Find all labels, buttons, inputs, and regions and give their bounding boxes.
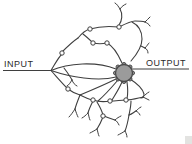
synaptic-bouton xyxy=(91,98,95,102)
axon-lines xyxy=(3,69,189,71)
synaptic-bouton xyxy=(88,27,92,31)
dendrite-branch xyxy=(80,95,92,100)
dendrite-branch xyxy=(64,68,72,80)
dendrite-branch xyxy=(88,101,93,113)
terminal-fork xyxy=(90,129,99,136)
dendrite-branch xyxy=(51,64,116,71)
terminal-fork xyxy=(69,109,78,117)
terminal-fork xyxy=(115,116,121,125)
synaptic-bouton xyxy=(117,25,121,29)
neuron-figure: INPUT OUTPUT xyxy=(0,0,192,144)
dendrite-branch xyxy=(119,9,122,25)
dendrite-branch xyxy=(107,43,122,63)
terminal-fork xyxy=(115,3,126,9)
dendrite-branch xyxy=(51,71,116,80)
dendrite-branch xyxy=(90,26,119,29)
neuron-diagram: INPUT OUTPUT xyxy=(0,0,192,144)
terminal-fork xyxy=(145,17,150,26)
terminal-fork xyxy=(136,107,141,115)
synaptic-bouton xyxy=(105,41,109,45)
terminal-fork xyxy=(67,80,77,86)
dendrite-branch xyxy=(127,82,128,99)
dendrite-branch xyxy=(75,95,80,109)
synaptic-bouton xyxy=(108,99,112,103)
soma-body xyxy=(116,65,133,82)
dendrite-branch xyxy=(62,38,78,52)
terminal-forks xyxy=(67,3,150,137)
synaptic-bouton xyxy=(60,51,64,55)
dendrite-branch xyxy=(97,102,103,115)
corner-artifact xyxy=(185,136,192,144)
synaptic-bouton xyxy=(101,114,105,118)
dendrite-branch xyxy=(80,79,116,95)
terminal-fork xyxy=(82,113,90,120)
dendrite-branch xyxy=(97,117,103,129)
synaptic-bouton xyxy=(66,87,70,91)
terminal-fork xyxy=(145,43,149,53)
synaptic-bouton xyxy=(91,41,95,45)
dendrite-branch xyxy=(141,46,145,48)
synaptic-bouton xyxy=(124,98,128,102)
terminal-fork xyxy=(118,131,127,137)
input-label: INPUT xyxy=(4,59,34,69)
output-label: OUTPUT xyxy=(146,58,186,68)
soma xyxy=(116,65,133,82)
dendrite-branch xyxy=(129,101,131,115)
dendrite-branch xyxy=(130,79,144,98)
dendrite-branch xyxy=(125,115,129,131)
dendrite-branch xyxy=(104,116,115,120)
dendrite-branch xyxy=(131,22,142,61)
